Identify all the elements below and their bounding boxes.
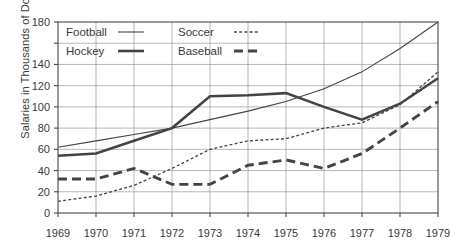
x-tick-label: 1972: [160, 227, 184, 239]
y-tick-label: 120: [32, 80, 50, 92]
x-tick-label: 1973: [198, 227, 222, 239]
x-tick-label: 1978: [388, 227, 412, 239]
x-tick-label: 1974: [236, 227, 260, 239]
y-tick-label: 80: [38, 122, 50, 134]
y-tick-label: 0: [44, 207, 50, 219]
x-tick-label: 1975: [274, 227, 298, 239]
legend-label-soccer: Soccer: [178, 26, 214, 38]
y-tick-label: 40: [38, 165, 50, 177]
y-tick-label: 20: [38, 186, 50, 198]
x-tick-label: 1979: [426, 227, 450, 239]
legend-label-football: Football: [66, 26, 107, 38]
tickmarks-group: [54, 22, 438, 217]
x-tick-label: 1970: [84, 227, 108, 239]
y-tick-label: 140: [32, 58, 50, 70]
y-tick-label: 60: [38, 143, 50, 155]
y-tick-label: 100: [32, 101, 50, 113]
legend-label-baseball: Baseball: [178, 45, 222, 57]
plot-area: 020406080100120140180 196919701971197219…: [0, 0, 450, 251]
x-tick-label: 1976: [312, 227, 336, 239]
x-tick-labels: 1969197019711972197319741975197619771978…: [46, 227, 450, 239]
x-tick-label: 1971: [122, 227, 146, 239]
salary-line-chart: Salaries in Thousands of Dollars 0204060…: [0, 0, 450, 251]
y-tick-label: 180: [32, 16, 50, 28]
y-tick-labels: 020406080100120140180: [32, 16, 50, 219]
x-tick-label: 1969: [46, 227, 70, 239]
legend-label-hockey: Hockey: [66, 45, 105, 57]
x-tick-label: 1977: [350, 227, 374, 239]
legend: FootballSoccerHockeyBaseball: [66, 26, 260, 57]
